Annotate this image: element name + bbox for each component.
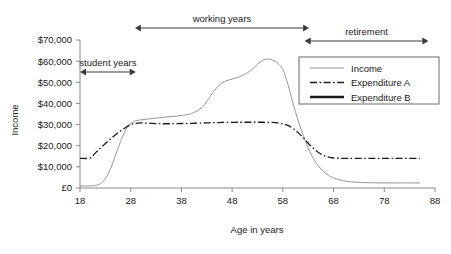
legend-label: Income: [351, 63, 382, 74]
y-tick-label: $60,000: [38, 56, 72, 67]
chart-legend: IncomeExpenditure AExpenditure B: [299, 57, 439, 104]
annotation-label: student years: [79, 57, 136, 68]
y-tick-label: $20,000: [38, 140, 72, 151]
x-axis-title: Age in years: [231, 224, 284, 235]
x-tick-label: 28: [125, 195, 136, 206]
y-tick-label: $30,000: [38, 119, 72, 130]
x-tick-label: 38: [176, 195, 187, 206]
y-tick-label: $10,000: [38, 161, 72, 172]
x-tick-label: 88: [430, 195, 441, 206]
y-tick-label: $40,000: [38, 98, 72, 109]
y-tick-label: $70,000: [38, 34, 72, 45]
legend-label: Expenditure A: [351, 77, 411, 88]
y-tick-label: £0: [61, 182, 72, 193]
annotation-label: retirement: [345, 26, 388, 37]
y-tick-label: $50,000: [38, 77, 72, 88]
chart-container: £0$10,000$20,000$30,000$40,000$50,000$60…: [0, 0, 451, 254]
annotation-label: working years: [192, 13, 252, 24]
x-tick-label: 68: [328, 195, 339, 206]
y-axis-title: Income: [9, 104, 20, 135]
legend-label: Expenditure B: [351, 92, 411, 103]
income-expenditure-line-chart: £0$10,000$20,000$30,000$40,000$50,000$60…: [0, 0, 451, 254]
x-tick-label: 18: [75, 195, 86, 206]
x-tick-label: 58: [278, 195, 289, 206]
x-tick-label: 78: [379, 195, 390, 206]
x-tick-label: 48: [227, 195, 238, 206]
